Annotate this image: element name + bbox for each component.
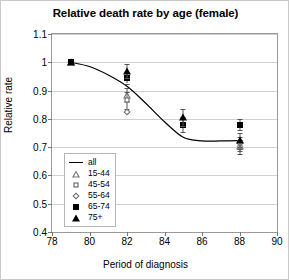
data-point-triangle-open: [72, 171, 80, 178]
y-tick-label: 0.5: [33, 198, 47, 209]
data-point-square-filled: [73, 204, 79, 210]
error-bar-cap: [237, 149, 242, 150]
x-tick-label: 86: [196, 236, 207, 247]
legend-item-label: 75+: [84, 212, 102, 223]
legend-marker-square-open: [68, 179, 84, 190]
legend-marker-triangle-filled: [68, 212, 84, 223]
x-axis-title: Period of diagnosis: [1, 259, 289, 270]
legend-marker-diamond-open: [68, 190, 84, 201]
legend-item-label: 45-54: [84, 179, 110, 190]
legend-item-75plus: 75+: [68, 212, 110, 223]
chart-legend: all15-4445-5455-6465-7475+: [64, 153, 116, 227]
x-tick-label: 84: [159, 236, 170, 247]
y-tick-label: 0.7: [33, 142, 47, 153]
error-bar-cap: [125, 78, 130, 79]
error-bar-cap: [181, 126, 186, 127]
legend-item-all: all: [68, 157, 110, 168]
legend-marker-triangle-open: [68, 168, 84, 179]
error-bar-cap: [237, 130, 242, 131]
error-bar-cap: [237, 133, 242, 134]
error-bar-cap: [125, 84, 130, 85]
data-point-square-filled: [237, 122, 243, 128]
y-tick-label: 0.8: [33, 113, 47, 124]
error-bar-cap: [125, 64, 130, 65]
legend-line-swatch: [69, 162, 83, 163]
data-point-triangle-filled: [179, 114, 187, 121]
x-tick-label: 78: [46, 236, 57, 247]
x-tick-label: 88: [234, 236, 245, 247]
error-bar-cap: [237, 119, 242, 120]
data-point-diamond-open: [72, 192, 79, 199]
error-bar-cap: [181, 132, 186, 133]
x-tick-label: 80: [84, 236, 95, 247]
legend-marker-square-filled: [68, 201, 84, 212]
y-tick-label: 1.1: [33, 29, 47, 40]
data-point-triangle-filled: [72, 215, 80, 222]
x-tick-label: 90: [271, 236, 282, 247]
data-point-square-open: [125, 98, 130, 103]
error-bar-cap: [125, 92, 130, 93]
legend-marker-line: [68, 157, 84, 168]
y-tick-label: 0.4: [33, 227, 47, 238]
y-tick-label: 1: [41, 57, 47, 68]
legend-item-65-74: 65-74: [68, 201, 110, 212]
error-bar-cap: [181, 109, 186, 110]
y-tick-label: 0.6: [33, 170, 47, 181]
legend-item-label: 15-44: [84, 168, 110, 179]
chart-title: Relative death rate by age (female): [1, 7, 289, 19]
legend-item-45-54: 45-54: [68, 179, 110, 190]
error-bar-cap: [125, 88, 130, 89]
chart-figure: Relative death rate by age (female) Rela…: [0, 0, 289, 280]
error-bar-cap: [237, 147, 242, 148]
legend-item-15-44: 15-44: [68, 168, 110, 179]
data-point-triangle-filled: [123, 67, 131, 74]
data-point-triangle-filled: [236, 137, 244, 144]
y-axis-title: Relative rate: [3, 77, 14, 133]
legend-item-label: 55-64: [84, 190, 110, 201]
legend-item-55-64: 55-64: [68, 190, 110, 201]
x-tick-label: 82: [121, 236, 132, 247]
legend-item-label: 65-74: [84, 201, 110, 212]
data-point-triangle-filled: [67, 59, 75, 66]
legend-item-label: all: [84, 157, 97, 168]
error-bar-cap: [237, 154, 242, 155]
y-tick-label: 0.9: [33, 85, 47, 96]
data-point-square-open: [74, 183, 79, 188]
